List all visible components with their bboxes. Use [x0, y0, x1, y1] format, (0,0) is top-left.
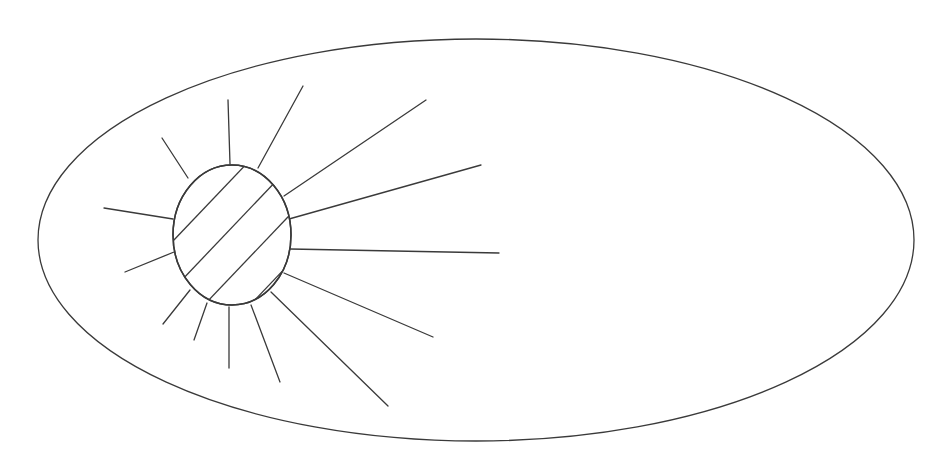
ray-line: [284, 100, 426, 196]
ray-line: [251, 305, 280, 382]
ray-line: [290, 249, 499, 253]
ray-line: [163, 290, 190, 324]
ray-line: [228, 100, 230, 164]
hatch-line: [108, 105, 348, 357]
ray-group: [104, 86, 499, 406]
ray-line: [284, 273, 433, 337]
ray-line: [125, 252, 174, 272]
ray-line: [258, 86, 303, 168]
diagram-canvas: [0, 0, 945, 469]
ray-line: [162, 138, 188, 178]
ray-line: [104, 208, 173, 219]
ray-line: [194, 303, 207, 340]
outer-ellipse: [38, 39, 914, 441]
ray-line: [271, 292, 388, 406]
core-hatching: [38, 35, 419, 428]
